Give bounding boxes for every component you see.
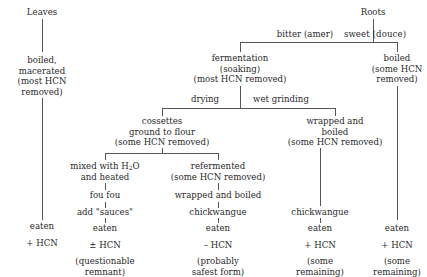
add-sauces-node: add "sauces" [77, 207, 133, 218]
foufou-outcome: eaten ± HCN (questionable remnant) [75, 223, 134, 277]
connector-line [162, 108, 163, 116]
cossettes-node: cossettes ground to flour (some HCN remo… [115, 116, 210, 148]
chickwangue-wet-outcome: eaten + HCN (some remaining) [296, 223, 344, 277]
connector-line [240, 86, 241, 108]
wet-grinding-label: wet grinding [253, 94, 309, 105]
leaves-boiled-node: boiled, macerated (most HCN removed) [18, 55, 67, 97]
roots-node: Roots [361, 7, 386, 18]
fou-fou-node: fou fou [90, 190, 121, 201]
connector-line [218, 183, 219, 190]
connector-line [397, 42, 398, 52]
connector-line [105, 153, 106, 160]
connector-line [162, 108, 336, 109]
connector-line [240, 42, 241, 52]
mixed-heated-node: mixed with H2O and heated [70, 161, 139, 182]
fermentation-node: fermentation (soaking) (most HCN removed… [194, 53, 287, 85]
chickwangue-dry-node: chickwangue [189, 207, 246, 218]
sweet-outcome: eaten + HCN (some remaining) [373, 223, 421, 277]
connector-line [105, 183, 106, 190]
wrapped-boiled-node: wrapped and boiled (some HCN removed) [288, 116, 383, 148]
connector-line [42, 98, 43, 220]
drying-label: drying [191, 94, 219, 105]
leaves-hcn: + HCN [26, 238, 58, 249]
connector-line [320, 148, 321, 206]
leaves-node: Leaves [27, 7, 57, 18]
refermented-node: refermented (some HCN removed) [171, 161, 266, 182]
connector-line [42, 19, 43, 52]
leaves-eaten: eaten [30, 221, 54, 232]
chickwangue-wet-node: chickwangue [291, 207, 348, 218]
connector-line [105, 153, 219, 154]
bitter-label: bitter (amer) [277, 29, 333, 40]
connector-line [335, 108, 336, 116]
sweet-boiled-node: boiled (some HCN removed) [372, 53, 423, 85]
connector-line [218, 153, 219, 160]
connector-line [240, 42, 398, 43]
refermented-wrapped-node: wrapped and boiled [175, 190, 262, 201]
sweet-label: sweet (douce) [344, 29, 406, 40]
chickwangue-dry-outcome: eaten – HCN (probably safest form) [192, 223, 244, 277]
connector-line [397, 86, 398, 220]
